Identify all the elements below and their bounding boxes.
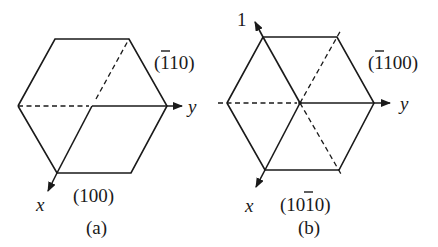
y-axis-label-b: y	[398, 93, 409, 114]
axis-1-b	[255, 22, 263, 37]
x-axis-label-a: x	[35, 194, 45, 215]
panel-a: (110) y x (100) (a)	[18, 39, 197, 239]
plane-label-b-bottom: (1010)	[280, 194, 331, 216]
crystal-planes-figure: (110) y x (100) (a) 1 (1100) y x (1010)	[0, 0, 438, 247]
x-axis-label-b: x	[244, 195, 254, 216]
panel-b: 1 (1100) y x (1010) (b)	[218, 9, 418, 239]
hexagon-b-spoke-topleft	[263, 37, 300, 103]
y-axis-label-a: y	[186, 96, 197, 117]
plane-label-a-bottom: (100)	[73, 185, 114, 207]
x-axis-a	[48, 173, 57, 191]
x-axis-b	[256, 170, 265, 187]
hexagon-b-spoke-bottomleft	[265, 103, 300, 170]
hexagon-a-inner-edge-bottom	[57, 106, 92, 173]
caption-a: (a)	[86, 217, 107, 239]
caption-b: (b)	[298, 217, 320, 239]
center-point-b	[298, 101, 302, 105]
hexagon-b-hidden-topright	[300, 30, 341, 103]
hexagon-b-hidden-bottomright	[300, 103, 341, 174]
hexagon-a-hidden-edge-top	[96, 39, 129, 99]
axis-1-label-b: 1	[237, 9, 247, 30]
plane-label-a-upper: (110)	[154, 52, 194, 74]
plane-label-b-upper: (1100)	[368, 52, 418, 74]
